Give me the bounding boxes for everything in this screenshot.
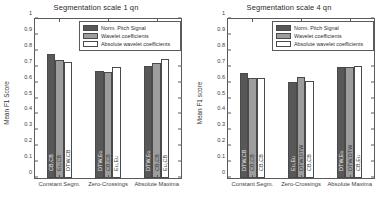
x-axis-tick-label: Zero-Crossings bbox=[88, 181, 128, 187]
legend-swatch-icon bbox=[276, 41, 291, 47]
y-axis-tick-mark bbox=[371, 18, 374, 19]
bar-value-label: CB,Eu bbox=[355, 155, 361, 171]
y-axis-tick-mark bbox=[178, 161, 181, 162]
plot-axes-left: 00.10.20.30.40.50.60.70.80.91CB,CBEu,CBD… bbox=[34, 18, 182, 179]
y-axis-tick-mark bbox=[371, 81, 374, 82]
y-axis-tick-mark bbox=[35, 113, 38, 114]
legend-label: Wavelet coefficients bbox=[294, 33, 342, 39]
bar-value-label: CB,CB bbox=[306, 154, 312, 171]
legend-label: Norm. Pitch Signal bbox=[294, 25, 339, 31]
legend-swatch-icon bbox=[83, 33, 98, 39]
bar-value-label: Eu,CB bbox=[162, 155, 168, 171]
bar: CB,CB bbox=[104, 72, 112, 178]
x-axis-tick-label: Absolute Maxima bbox=[134, 181, 178, 187]
figure-canvas: Segmentation scale 1 qn 00.10.20.30.40.5… bbox=[0, 0, 385, 206]
y-axis-tick-label: 0.1 bbox=[24, 153, 32, 159]
legend-item: Wavelet coefficients bbox=[83, 32, 177, 40]
bar: Eu,CB bbox=[55, 60, 63, 178]
y-axis-tick-label: 0.9 bbox=[217, 26, 225, 32]
legend-item: Absolute wavelet coefficients bbox=[276, 40, 370, 48]
legend-label: Wavelet coefficients bbox=[101, 33, 149, 39]
legend-item: Absolute wavelet coefficients bbox=[83, 40, 177, 48]
legend-item: Norm. Pitch Signal bbox=[83, 24, 177, 32]
y-axis-tick-label: 0.6 bbox=[217, 74, 225, 80]
y-axis-tick-mark bbox=[178, 177, 181, 178]
y-axis-tick-mark bbox=[228, 18, 231, 19]
y-axis-tick-label: 0.8 bbox=[24, 42, 32, 48]
bar: DTW,DTW bbox=[297, 77, 305, 178]
legend-left: Norm. Pitch Signal Wavelet coefficients … bbox=[79, 21, 181, 51]
y-axis-label-right: Mean F1 score bbox=[196, 82, 203, 125]
bar: DTW,Eu bbox=[95, 71, 103, 178]
bar: Eu,Eu bbox=[112, 67, 120, 178]
y-axis-tick-label: 1 bbox=[222, 10, 225, 16]
plot-axes-right: 00.10.20.30.40.50.60.70.80.91DTW,CBCB,CB… bbox=[227, 18, 375, 179]
y-axis-tick-mark bbox=[228, 129, 231, 130]
x-axis-tick-label: Zero-Crossings bbox=[281, 181, 321, 187]
y-axis-tick-mark bbox=[228, 113, 231, 114]
legend-label: Norm. Pitch Signal bbox=[101, 25, 146, 31]
x-axis-tick-mark bbox=[301, 175, 302, 178]
chart-panel-right: Segmentation scale 4 qn 00.10.20.30.40.5… bbox=[193, 0, 385, 206]
bar-value-label: DTW,Eu bbox=[145, 150, 151, 171]
y-axis-tick-mark bbox=[35, 49, 38, 50]
y-axis-tick-label: 0.5 bbox=[24, 90, 32, 96]
bar-value-label: CB,CB bbox=[249, 154, 255, 171]
y-axis-tick-mark bbox=[228, 177, 231, 178]
y-axis-tick-label: 0.5 bbox=[217, 90, 225, 96]
bar-value-label: CB,CB bbox=[105, 154, 111, 171]
y-axis-tick-mark bbox=[35, 129, 38, 130]
y-axis-tick-label: 1 bbox=[29, 10, 32, 16]
y-axis-tick-mark bbox=[35, 81, 38, 82]
y-axis-tick-label: 0.3 bbox=[217, 121, 225, 127]
bar: DTW,Eu bbox=[144, 66, 152, 178]
legend-swatch-icon bbox=[276, 33, 291, 39]
bar: DTW,CB bbox=[64, 62, 72, 178]
legend-swatch-icon bbox=[83, 25, 98, 31]
y-axis-tick-mark bbox=[178, 97, 181, 98]
x-axis-tick-mark bbox=[350, 175, 351, 178]
legend-item: Wavelet coefficients bbox=[276, 32, 370, 40]
bar-value-label: Eu,Eu bbox=[113, 156, 119, 171]
y-axis-tick-mark bbox=[178, 18, 181, 19]
y-axis-tick-mark bbox=[371, 65, 374, 66]
y-axis-tick-mark bbox=[228, 65, 231, 66]
bar-value-label: DTW,CB bbox=[65, 149, 71, 171]
y-axis-tick-label: 0.4 bbox=[24, 105, 32, 111]
y-axis-tick-label: 0.1 bbox=[217, 153, 225, 159]
bar-value-label: Eu,Eu bbox=[290, 156, 296, 171]
y-axis-tick-mark bbox=[35, 33, 38, 34]
y-axis-tick-mark bbox=[178, 65, 181, 66]
y-axis-tick-mark bbox=[228, 161, 231, 162]
y-axis-tick-mark bbox=[35, 97, 38, 98]
legend-item: Norm. Pitch Signal bbox=[276, 24, 370, 32]
y-axis-tick-mark bbox=[228, 97, 231, 98]
bar-value-label: CB,CB bbox=[154, 154, 160, 171]
bar: CB,CB bbox=[305, 81, 313, 178]
y-axis-tick-label: 0.6 bbox=[24, 74, 32, 80]
bar-value-label: CB,CB bbox=[258, 154, 264, 171]
bar-value-label: DTW,CB bbox=[241, 149, 247, 171]
y-axis-tick-mark bbox=[371, 161, 374, 162]
y-axis-tick-label: 0 bbox=[29, 169, 32, 175]
y-axis-tick-mark bbox=[228, 81, 231, 82]
x-axis-tick-label: Absolute Maxima bbox=[327, 181, 371, 187]
y-axis-tick-mark bbox=[371, 97, 374, 98]
y-axis-tick-mark bbox=[178, 145, 181, 146]
x-axis-tick-mark bbox=[252, 19, 253, 22]
y-axis-tick-mark bbox=[228, 145, 231, 146]
y-axis-tick-label: 0 bbox=[222, 169, 225, 175]
y-axis-tick-mark bbox=[371, 129, 374, 130]
bar-value-label: DTW,Eu bbox=[338, 150, 344, 171]
bar: CB,CB bbox=[257, 78, 265, 178]
y-axis-tick-label: 0.4 bbox=[217, 105, 225, 111]
y-axis-tick-label: 0.2 bbox=[217, 137, 225, 143]
x-axis-tick-mark bbox=[108, 175, 109, 178]
y-axis-tick-mark bbox=[178, 113, 181, 114]
bar: CB,CB bbox=[152, 63, 160, 178]
y-axis-label-left: Mean F1 Score bbox=[3, 81, 10, 125]
legend-swatch-icon bbox=[276, 25, 291, 31]
y-axis-tick-label: 0.3 bbox=[24, 121, 32, 127]
legend-label: Absolute wavelet coefficients bbox=[101, 41, 170, 47]
bar-value-label: CB,CB bbox=[48, 154, 54, 171]
